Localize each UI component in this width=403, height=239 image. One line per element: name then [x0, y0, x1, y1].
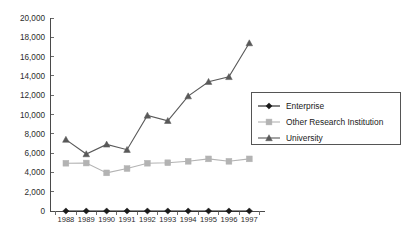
x-tick-label: 1989 — [78, 215, 95, 224]
data-point-triangle — [144, 112, 151, 118]
data-point-triangle — [63, 136, 70, 142]
series-other-research-institution — [63, 156, 252, 176]
x-tick-label: 1996 — [220, 215, 237, 224]
data-point-triangle — [83, 151, 90, 157]
y-tick-label: 4,000 — [25, 168, 46, 177]
series-line — [66, 159, 249, 173]
x-tick-label: 1995 — [200, 215, 217, 224]
data-point-square — [246, 156, 252, 162]
data-point-diamond — [185, 208, 191, 214]
legend-label: University — [286, 133, 324, 143]
data-series-layer — [63, 40, 253, 214]
data-point-diamond — [124, 208, 130, 214]
data-point-square — [206, 156, 212, 162]
x-tick-label: 1993 — [159, 215, 176, 224]
data-point-square — [145, 160, 151, 166]
y-axis-tick-labels: 02,0004,0006,0008,00010,00012,00014,0001… — [20, 14, 45, 216]
data-point-square — [63, 160, 69, 166]
data-point-diamond — [165, 208, 171, 214]
y-tick-label: 6,000 — [25, 149, 46, 158]
x-tick-label: 1992 — [139, 215, 156, 224]
x-tick-label: 1991 — [119, 215, 136, 224]
y-tick-label: 18,000 — [20, 33, 45, 42]
y-tick-label: 8,000 — [25, 130, 46, 139]
data-point-triangle — [226, 74, 233, 80]
y-tick-label: 2,000 — [25, 188, 46, 197]
chart-legend: EnterpriseOther Research InstitutionUniv… — [252, 93, 401, 145]
data-point-square — [83, 160, 89, 166]
data-point-diamond — [144, 208, 150, 214]
legend-label: Enterprise — [286, 101, 325, 111]
chart-canvas: 02,0004,0006,0008,00010,00012,00014,0001… — [0, 0, 403, 239]
series-line — [66, 43, 249, 154]
data-point-diamond — [205, 208, 211, 214]
data-point-square — [124, 166, 130, 172]
data-point-diamond — [63, 208, 69, 214]
data-point-triangle — [103, 141, 110, 147]
data-point-square — [226, 158, 232, 164]
y-tick-label: 10,000 — [20, 111, 45, 120]
data-point-diamond — [83, 208, 89, 214]
x-tick-label: 1988 — [57, 215, 74, 224]
y-axis-tick-marks — [50, 18, 54, 211]
data-point-diamond — [104, 208, 110, 214]
y-tick-label: 12,000 — [20, 91, 45, 100]
data-point-square — [185, 158, 191, 164]
data-point-diamond — [226, 208, 232, 214]
data-point-triangle — [246, 40, 253, 46]
data-point-square — [165, 160, 171, 166]
y-tick-label: 20,000 — [20, 14, 45, 23]
y-tick-label: 0 — [40, 207, 45, 216]
data-point-triangle — [185, 93, 192, 99]
x-axis-tick-labels: 1988198919901991199219931994199519961997 — [57, 215, 257, 224]
data-point-square — [104, 170, 110, 176]
data-point-diamond — [246, 208, 252, 214]
x-tick-label: 1997 — [241, 215, 258, 224]
line-chart: 02,0004,0006,0008,00010,00012,00014,0001… — [0, 0, 403, 239]
legend-label: Other Research Institution — [286, 117, 384, 127]
x-tick-label: 1994 — [180, 215, 197, 224]
data-point-square — [266, 119, 272, 125]
y-tick-label: 14,000 — [20, 72, 45, 81]
y-tick-label: 16,000 — [20, 53, 45, 62]
series-university — [63, 40, 253, 157]
x-tick-label: 1990 — [98, 215, 115, 224]
